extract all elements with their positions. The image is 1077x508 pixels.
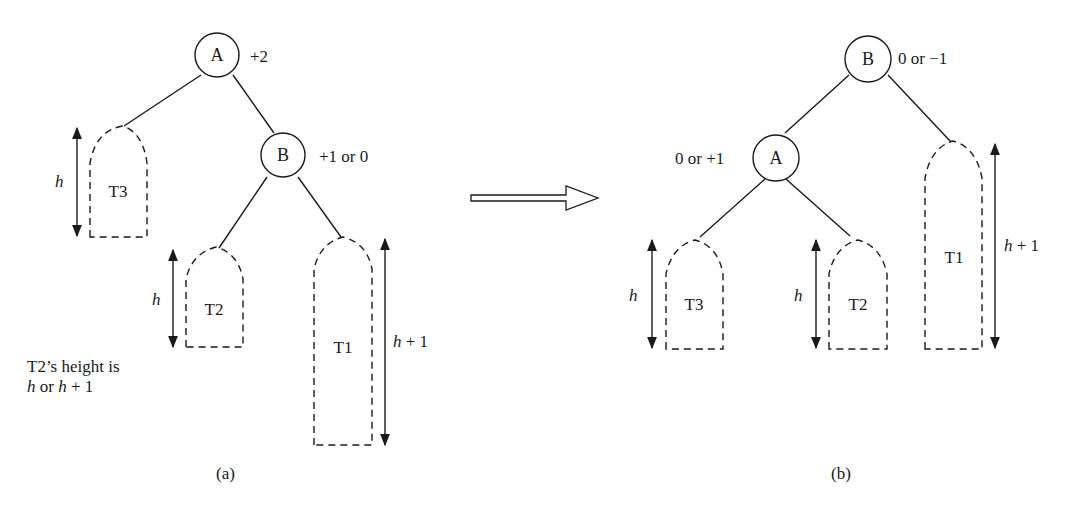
t2-height-note-line1: T2’s height is bbox=[27, 357, 120, 377]
subtree-t3-label: T3 bbox=[88, 182, 148, 202]
node-a-child-balance: 0 or +1 bbox=[675, 149, 724, 169]
height-plus: + 1 bbox=[402, 332, 429, 351]
subtree-t2-shape bbox=[186, 247, 243, 347]
note-rest: + 1 bbox=[67, 377, 94, 396]
caption-a: (a) bbox=[216, 464, 235, 484]
height-var: h bbox=[393, 332, 402, 351]
diagram-canvas bbox=[0, 0, 1077, 508]
panel-a-edges bbox=[124, 75, 341, 248]
node-b-root-balance: 0 or −1 bbox=[898, 49, 947, 69]
node-b-root-label: B bbox=[848, 39, 888, 79]
transform-arrow-icon bbox=[471, 186, 598, 210]
subtree-t1-height: h + 1 bbox=[393, 332, 428, 352]
note-h2: h bbox=[58, 377, 67, 396]
subtree-t1-height-b: h + 1 bbox=[1004, 236, 1039, 256]
subtree-t2-height: h bbox=[152, 290, 161, 310]
node-b-balance: +1 or 0 bbox=[319, 147, 368, 167]
node-a-label: A bbox=[197, 35, 237, 75]
height-var-b: h bbox=[1004, 236, 1013, 255]
subtree-t3-label-b: T3 bbox=[664, 295, 724, 315]
subtree-t1-shape-b bbox=[925, 141, 982, 349]
note-or: or bbox=[36, 377, 59, 396]
subtree-t2-label: T2 bbox=[184, 300, 244, 320]
subtree-t3-height: h bbox=[55, 172, 64, 192]
height-plus-b: + 1 bbox=[1013, 236, 1040, 255]
node-b-label: B bbox=[263, 135, 303, 175]
subtree-t2-height-b: h bbox=[794, 286, 803, 306]
node-a-child-label: A bbox=[756, 138, 796, 178]
node-a-balance: +2 bbox=[250, 47, 268, 67]
subtree-t2-label-b: T2 bbox=[828, 295, 888, 315]
caption-b: (b) bbox=[831, 464, 851, 484]
subtree-t3-height-b: h bbox=[629, 286, 638, 306]
subtree-t1-label: T1 bbox=[313, 338, 373, 358]
note-h1: h bbox=[27, 377, 36, 396]
subtree-t1-label-b: T1 bbox=[924, 248, 984, 268]
panel-b-edges bbox=[700, 75, 951, 237]
t2-height-note-line2: h or h + 1 bbox=[27, 377, 93, 397]
